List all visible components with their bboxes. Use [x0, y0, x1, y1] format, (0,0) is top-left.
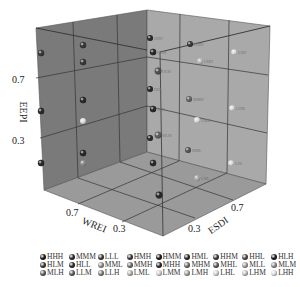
eepi-tick-0.7: 0.7 — [12, 74, 25, 85]
data-point-shade — [147, 135, 153, 141]
data-point-shade — [147, 35, 153, 41]
legend-marker-icon — [69, 270, 75, 276]
legend-row: MLHLLMLLHLMLLMMLMHLHLLHMLHH — [40, 269, 300, 277]
data-point-label: LMM — [201, 118, 211, 123]
legend-marker-icon — [156, 254, 162, 260]
legend-label: LMH — [191, 269, 208, 277]
data-point-shade — [38, 160, 44, 166]
data-point-shade — [80, 59, 86, 65]
legend-marker-icon — [213, 270, 219, 276]
data-point-shade — [80, 97, 86, 103]
legend-marker-icon — [271, 254, 277, 260]
eepi-axis-label: EEPI — [18, 101, 29, 122]
data-point-shade — [38, 50, 44, 56]
wrei-tick-0.7: 0.7 — [66, 207, 79, 218]
esdi-tick-0.3: 0.3 — [188, 223, 201, 234]
data-point-shade — [155, 68, 162, 75]
legend: HHHMMMLLLHMHHMMHMLHHMHHLHLHHLMHLLMMLMMHM… — [40, 253, 300, 277]
legend-marker-icon — [98, 254, 104, 260]
legend-item: LHH — [271, 269, 300, 277]
legend-label: MLH — [47, 269, 64, 277]
data-point-shade — [185, 147, 191, 153]
legend-marker-icon — [127, 270, 133, 276]
legend-item: LHL — [213, 269, 242, 277]
data-point-label: HLM — [162, 69, 171, 74]
legend-item: LLM — [69, 269, 98, 277]
legend-item: MLH — [40, 269, 69, 277]
legend-marker-icon — [98, 262, 104, 268]
legend-marker-icon — [40, 254, 46, 260]
esdi-axis-label: ESDI — [206, 214, 231, 236]
legend-marker-icon — [184, 254, 190, 260]
legend-marker-icon — [69, 262, 75, 268]
legend-label: LHM — [249, 269, 266, 277]
data-point-label: MML — [192, 148, 202, 153]
legend-marker-icon — [242, 270, 248, 276]
legend-label: LMM — [163, 269, 181, 277]
data-point-label: MMM — [193, 97, 204, 102]
wrei-tick-0.3: 0.3 — [113, 223, 126, 234]
legend-marker-icon — [69, 254, 75, 260]
data-point-shade — [80, 160, 86, 166]
3d-scatter-chart: HHHHHMHLMHHLMHLMLMHMHLMHMMMLMMMMLLMLLHHL… — [0, 0, 300, 250]
legend-marker-icon — [213, 254, 219, 260]
legend-marker-icon — [271, 262, 277, 268]
legend-item: LML — [127, 269, 156, 277]
data-point-label: LHL — [235, 161, 243, 166]
data-point-label: HHL — [154, 87, 163, 92]
legend-item: LMM — [156, 269, 185, 277]
legend-marker-icon — [184, 270, 190, 276]
legend-marker-icon — [242, 262, 248, 268]
legend-marker-icon — [127, 254, 133, 260]
data-point-shade — [80, 118, 86, 124]
legend-marker-icon — [184, 262, 190, 268]
legend-marker-icon — [40, 270, 46, 276]
data-point-label: LML — [201, 176, 210, 181]
data-point-shade — [155, 132, 162, 139]
data-point-shade — [228, 160, 234, 166]
data-point-shade — [229, 105, 235, 111]
legend-marker-icon — [213, 262, 219, 268]
data-point-shade — [194, 175, 200, 181]
data-point-shade — [197, 58, 203, 64]
legend-marker-icon — [156, 270, 162, 276]
data-point-label: LMH — [204, 59, 213, 64]
legend-marker-icon — [271, 270, 277, 276]
legend-marker-icon — [40, 262, 46, 268]
data-point-label: HMH — [194, 42, 203, 47]
legend-label: LHH — [278, 269, 293, 277]
legend-marker-icon — [242, 254, 248, 260]
legend-marker-icon — [127, 262, 133, 268]
esdi-tick-0.7: 0.7 — [231, 202, 244, 213]
data-point-shade — [38, 108, 44, 114]
legend-marker-icon — [98, 270, 104, 276]
eepi-tick-0.3: 0.3 — [12, 135, 25, 146]
legend-label: LML — [134, 269, 150, 277]
data-point-label: LHM — [236, 106, 245, 111]
legend-item: LLH — [98, 269, 127, 277]
data-point-shade — [150, 160, 156, 166]
legend-label: LHL — [220, 269, 235, 277]
data-point-shade — [187, 41, 193, 47]
legend-label: LLM — [76, 269, 92, 277]
data-point-shade — [150, 49, 156, 55]
data-point-label: LHH — [238, 50, 246, 55]
data-point-label: HHM — [157, 50, 167, 55]
data-point-shade — [194, 117, 200, 123]
wrei-axis-label: WREI — [80, 215, 108, 235]
data-point-shade — [156, 192, 163, 199]
legend-item: LMH — [184, 269, 213, 277]
data-point-shade — [186, 96, 192, 102]
data-point-shade — [80, 42, 86, 48]
data-point-shade — [80, 150, 86, 156]
data-point-shade — [147, 86, 153, 92]
data-point-shade — [150, 106, 156, 112]
data-point-label: HHH — [154, 36, 163, 41]
data-point-label: MLM — [162, 133, 172, 138]
legend-label: LLH — [105, 269, 120, 277]
legend-item: LHM — [242, 269, 271, 277]
data-point-label: MHL — [157, 107, 166, 112]
data-point-shade — [231, 49, 237, 55]
legend-marker-icon — [156, 262, 162, 268]
